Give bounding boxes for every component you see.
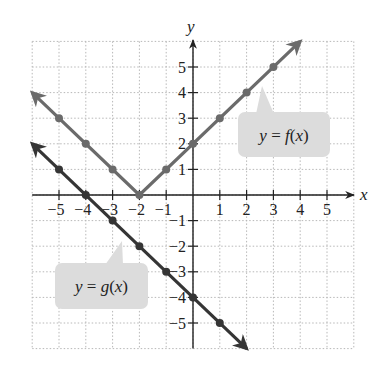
y-tick-label: −2 xyxy=(169,238,186,255)
data-point xyxy=(216,319,224,327)
callout-label: y = f(x) xyxy=(257,126,308,145)
y-tick-label: −4 xyxy=(169,289,186,306)
callout-label: y = g(x) xyxy=(73,277,128,296)
function-graph: −5−4−3−2−112345−5−4−3−2−112345 y = f(x)y… xyxy=(0,0,381,365)
x-tick-label: −2 xyxy=(128,201,145,218)
x-tick-label: −5 xyxy=(47,201,64,218)
y-tick-label: 5 xyxy=(178,59,186,76)
y-tick-label: 1 xyxy=(178,161,186,178)
data-point xyxy=(243,89,251,97)
x-tick-label: 2 xyxy=(243,201,251,218)
data-point xyxy=(109,217,117,225)
data-point xyxy=(162,165,170,173)
data-point xyxy=(216,114,224,122)
y-axis-label: y xyxy=(185,17,195,36)
y-tick-label: 4 xyxy=(178,84,186,101)
y-tick-label: 3 xyxy=(178,110,186,127)
data-point xyxy=(135,191,143,199)
data-point xyxy=(189,140,197,148)
x-tick-label: −3 xyxy=(101,201,118,218)
x-tick-label: 5 xyxy=(323,201,331,218)
g-callout: y = g(x) xyxy=(55,241,148,309)
data-point xyxy=(109,165,117,173)
x-tick-label: 4 xyxy=(296,201,304,218)
data-point xyxy=(55,114,63,122)
callout-pointer xyxy=(256,86,274,114)
data-point xyxy=(162,268,170,276)
x-tick-label: 1 xyxy=(216,201,224,218)
data-point xyxy=(82,140,90,148)
x-axis-label: x xyxy=(359,185,368,204)
data-point xyxy=(82,191,90,199)
x-tick-label: 3 xyxy=(269,201,277,218)
y-tick-label: −1 xyxy=(169,212,186,229)
data-point xyxy=(55,165,63,173)
y-tick-label: −5 xyxy=(169,315,186,332)
data-point xyxy=(269,63,277,71)
data-point xyxy=(135,242,143,250)
x-tick-label: −4 xyxy=(74,201,91,218)
data-point xyxy=(189,293,197,301)
f-callout: y = f(x) xyxy=(238,86,330,157)
callout-pointer xyxy=(105,241,123,265)
